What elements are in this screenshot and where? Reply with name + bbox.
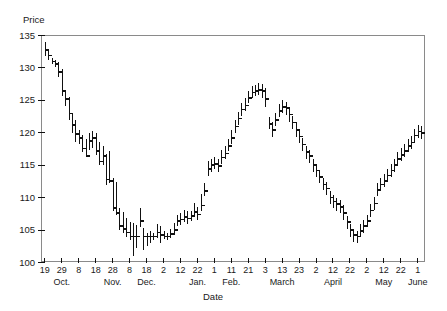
y-tick-label: 115 [9,159,35,170]
y-tick-label: 125 [9,94,35,105]
x-month-label: Oct. [45,277,79,287]
x-month-label: March [265,277,299,287]
y-tick-label: 100 [9,257,35,268]
x-month-label: Dec. [130,277,164,287]
x-month-label: Feb. [214,277,248,287]
x-tick-label: 1 [407,265,429,275]
x-month-label: Nov. [96,277,130,287]
y-tick-label: 135 [9,30,35,41]
y-tick-label: 130 [9,62,35,73]
x-month-label: Jan. [180,277,214,287]
x-month-label: May [367,277,401,287]
x-month-label: June [401,277,435,287]
y-tick-label: 110 [9,192,35,203]
price-chart: Price Date 100105110115120125130135 1929… [0,0,447,311]
x-month-label: April [316,277,350,287]
y-tick-label: 120 [9,127,35,138]
y-tick-label: 105 [9,224,35,235]
